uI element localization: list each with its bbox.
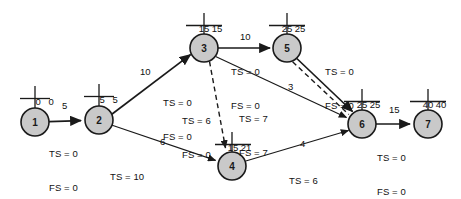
edge-3-4-float: TS = 6 FS = 0 — [182, 93, 211, 183]
node-6-early-time: 25 — [356, 99, 369, 110]
edge-2-3-duration: 10 — [140, 66, 151, 77]
node-3-early-time: 15 — [198, 23, 211, 34]
edge-5-6-float: TS = 0 FS = 0 — [325, 44, 354, 134]
edge-3-4-total-float: TS = 6 — [182, 115, 211, 126]
node-1-times: 00 — [21, 85, 58, 118]
edge-3-6-float: TS = 7 FS = 7 — [239, 91, 268, 181]
edge-6-7-free-float: FS = 0 — [377, 186, 406, 197]
edge-6-7-total-float: TS = 0 — [377, 152, 406, 163]
edge-1-2 — [49, 121, 81, 122]
edge-6-7-float: TS = 0 FS = 0 — [377, 130, 406, 199]
edge-3-6-total-float: TS = 7 — [239, 113, 268, 124]
edge-1-2-duration: 5 — [62, 100, 67, 111]
edge-3-6-free-float: FS = 7 — [239, 147, 268, 158]
edge-2-4-total-float: TS = 10 — [110, 171, 144, 182]
node-4-early-time: 15 — [227, 142, 240, 153]
edge-1-2-free-float: FS = 0 — [49, 182, 78, 193]
node-6-late-time: 25 — [369, 99, 382, 110]
edge-1-2-float: TS = 0 FS = 0 — [49, 126, 78, 199]
node-3-late-time: 15 — [211, 23, 224, 34]
node-7-early-time: 40 — [422, 99, 435, 110]
node-7-times: 4040 — [411, 88, 448, 121]
node-5-late-time: 25 — [294, 23, 307, 34]
node-2-late-time: 5 — [109, 94, 122, 105]
edge-4-6-float: TS = 6 FS = 6 — [289, 153, 318, 199]
node-1-late-time: 0 — [45, 96, 58, 107]
node-5-times: 2525 — [270, 12, 307, 45]
edge-5-6-free-float: FS = 0 — [325, 100, 354, 111]
edge-3-4-free-float: FS = 0 — [182, 149, 211, 160]
node-2-early-time: 5 — [96, 94, 109, 105]
node-2-label: 2 — [96, 115, 102, 126]
network-diagram: 1 2 3 4 5 6 7 00 55 151 — [0, 0, 461, 199]
node-3-times: 1515 — [187, 12, 224, 45]
edge-1-2-total-float: TS = 0 — [49, 148, 78, 159]
edge-2-4-float: TS = 10 FS = 4 — [110, 149, 144, 199]
edge-5-6-total-float: TS = 0 — [325, 66, 354, 77]
edge-6-7-duration: 15 — [389, 104, 400, 115]
edge-3-5-total-float: TS = 0 — [231, 66, 260, 77]
node-1-label: 1 — [32, 117, 38, 128]
node-7-late-time: 40 — [435, 99, 448, 110]
node-1-early-time: 0 — [32, 96, 45, 107]
edge-4-6-duration: 4 — [300, 138, 305, 149]
node-2-times: 55 — [85, 83, 122, 116]
edge-3-6-duration: 3 — [288, 81, 293, 92]
edge-4-6-total-float: TS = 6 — [289, 175, 318, 186]
node-5-early-time: 25 — [281, 23, 294, 34]
edge-3-5-duration: 10 — [240, 31, 251, 42]
